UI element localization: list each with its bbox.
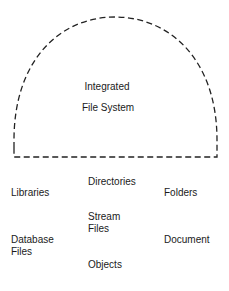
item-stream-files: Stream Files [88, 211, 120, 234]
item-directories: Directories [88, 176, 136, 188]
container-label-line1: Integrated [82, 81, 132, 93]
item-database-files: Database Files [11, 234, 54, 257]
item-folders: Folders [164, 187, 197, 199]
item-libraries: Libraries [11, 187, 49, 199]
container-label-line2: File System [76, 102, 140, 114]
item-objects: Objects [88, 259, 122, 271]
item-document: Document [164, 234, 210, 246]
